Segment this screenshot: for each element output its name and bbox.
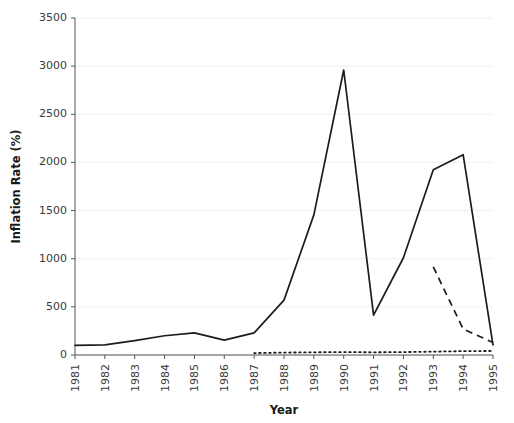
x-tick-label: 1987 xyxy=(248,364,261,392)
x-tick-label: 1992 xyxy=(397,364,410,392)
y-tick-label: 500 xyxy=(46,300,67,313)
x-axis-ticks xyxy=(75,355,493,359)
y-axis-tick-labels: 0500100015002000250030003500 xyxy=(39,11,67,361)
inflation-rate-line-chart: 0500100015002000250030003500 19811982198… xyxy=(0,0,514,423)
x-tick-label: 1991 xyxy=(368,364,381,392)
x-axis-tick-labels: 1981198219831984198519861987198819891990… xyxy=(69,364,500,392)
x-tick-label: 1986 xyxy=(218,364,231,392)
y-tick-label: 1000 xyxy=(39,252,67,265)
solid-series-line xyxy=(75,70,493,345)
chart-canvas: 0500100015002000250030003500 19811982198… xyxy=(0,0,514,423)
y-tick-label: 2500 xyxy=(39,107,67,120)
y-tick-label: 1500 xyxy=(39,204,67,217)
y-gridlines xyxy=(75,18,493,355)
y-tick-label: 0 xyxy=(60,348,67,361)
y-tick-label: 3500 xyxy=(39,11,67,24)
x-tick-label: 1995 xyxy=(487,364,500,392)
y-tick-label: 3000 xyxy=(39,59,67,72)
x-axis-title: Year xyxy=(269,403,299,417)
y-tick-label: 2000 xyxy=(39,155,67,168)
x-tick-label: 1990 xyxy=(338,364,351,392)
x-tick-label: 1989 xyxy=(308,364,321,392)
dotted-series-line xyxy=(254,351,493,353)
x-tick-label: 1993 xyxy=(427,364,440,392)
x-tick-label: 1983 xyxy=(129,364,142,392)
dashed-series-line xyxy=(433,267,493,343)
x-tick-label: 1982 xyxy=(99,364,112,392)
x-tick-label: 1985 xyxy=(188,364,201,392)
y-axis-title: Inflation Rate (%) xyxy=(9,129,23,243)
x-tick-label: 1984 xyxy=(159,364,172,392)
x-tick-label: 1994 xyxy=(457,364,470,392)
x-tick-label: 1988 xyxy=(278,364,291,392)
axis-lines xyxy=(75,18,493,355)
y-axis-ticks xyxy=(71,18,75,355)
x-tick-label: 1981 xyxy=(69,364,82,392)
data-series-group xyxy=(75,70,493,353)
